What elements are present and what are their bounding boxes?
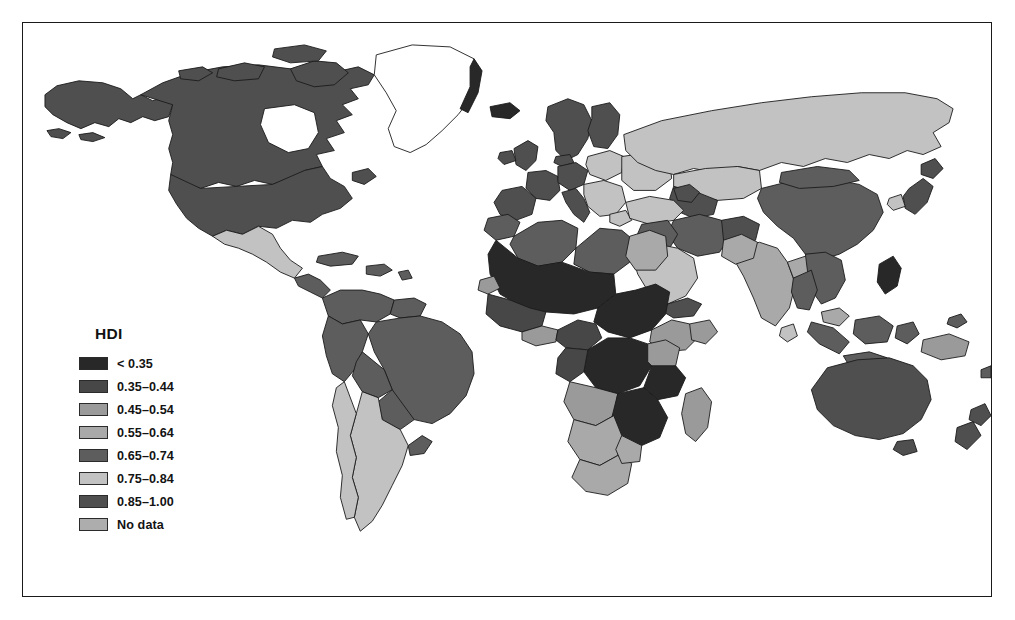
hdi-world-map-figure: .ld { fill:#282828; } .lc { fill:#474747… [0, 0, 1015, 620]
figure-frame: .ld { fill:#282828; } .lc { fill:#474747… [22, 22, 992, 597]
legend-label-no-data: No data [117, 518, 164, 532]
legend-item[interactable]: 0.45–0.54 [57, 398, 237, 421]
legend-item[interactable]: < 0.35 [57, 352, 237, 375]
legend-swatch-075-084 [79, 472, 108, 485]
legend-swatch-085-100 [79, 495, 108, 508]
legend-label-045-054: 0.45–0.54 [117, 403, 174, 417]
legend-item[interactable]: 0.65–0.74 [57, 444, 237, 467]
legend-item[interactable]: 0.75–0.84 [57, 467, 237, 490]
region-egypt [626, 230, 668, 270]
legend-label-065-074: 0.65–0.74 [117, 449, 174, 463]
legend-swatch-055-064 [79, 426, 108, 439]
legend-item[interactable]: 0.35–0.44 [57, 375, 237, 398]
map-legend: HDI < 0.35 0.35–0.44 0.45–0.54 0.55–0.64… [57, 325, 237, 536]
region-guyanas [390, 298, 426, 318]
legend-item[interactable]: No data [57, 513, 237, 536]
legend-swatch-no-data [79, 518, 108, 531]
legend-item[interactable]: 0.55–0.64 [57, 421, 237, 444]
legend-title: HDI [95, 325, 237, 343]
legend-label-085-100: 0.85–1.00 [117, 495, 174, 509]
legend-label-035-044: 0.35–0.44 [117, 380, 174, 394]
legend-label-075-084: 0.75–0.84 [117, 472, 174, 486]
legend-swatch-065-074 [79, 449, 108, 462]
legend-label-lt-035: < 0.35 [117, 357, 153, 371]
legend-label-055-064: 0.55–0.64 [117, 426, 174, 440]
legend-swatch-045-054 [79, 403, 108, 416]
legend-swatch-lt-035 [79, 357, 108, 370]
legend-item[interactable]: 0.85–1.00 [57, 490, 237, 513]
legend-swatch-035-044 [79, 380, 108, 393]
